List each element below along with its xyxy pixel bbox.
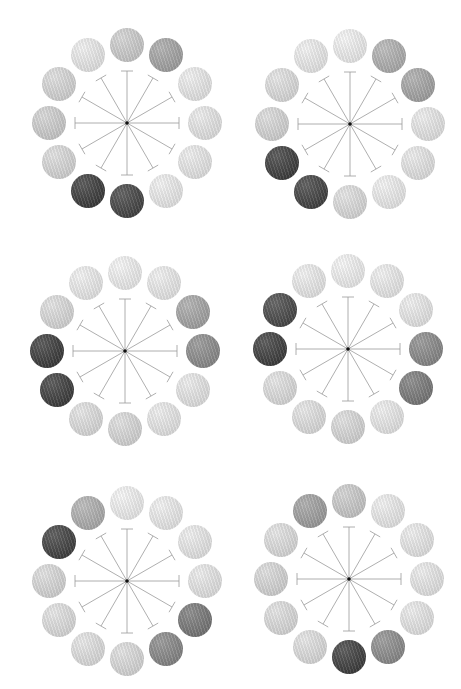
spoke — [127, 123, 153, 168]
spoke-hub-icon — [12, 8, 242, 238]
color-wheel-panel-5 — [12, 466, 242, 689]
spoke-cap — [79, 144, 85, 154]
spoke-cap — [319, 166, 329, 172]
spoke — [305, 124, 350, 150]
spoke-cap — [96, 165, 106, 171]
spoke — [101, 581, 127, 626]
hub-dot — [125, 121, 129, 125]
color-wheel-panel-2 — [235, 9, 461, 239]
spoke-cap — [77, 372, 83, 382]
spoke — [99, 306, 125, 351]
color-wheel-panel-6 — [234, 464, 461, 689]
spoke-cap — [79, 92, 85, 102]
spoke — [101, 78, 127, 123]
spoke-cap — [167, 372, 173, 382]
hub-dot — [123, 349, 127, 353]
spoke-cap — [96, 75, 106, 81]
spoke-cap — [391, 548, 397, 558]
spoke — [125, 325, 170, 351]
spoke — [127, 78, 153, 123]
spoke — [127, 581, 153, 626]
spoke — [323, 534, 349, 579]
spoke — [322, 304, 348, 349]
spoke-cap — [369, 301, 379, 307]
spoke-cap — [77, 320, 83, 330]
spoke-cap — [146, 393, 156, 399]
spoke — [82, 555, 127, 581]
spoke-cap — [94, 303, 104, 309]
spoke — [127, 123, 172, 149]
spoke — [323, 579, 349, 624]
spoke-cap — [392, 93, 398, 103]
spoke-cap — [167, 320, 173, 330]
spoke-cap — [301, 600, 307, 610]
spoke — [348, 349, 374, 394]
spoke — [348, 349, 393, 375]
spoke — [127, 581, 172, 607]
spoke-cap — [371, 76, 381, 82]
hub-dot — [125, 579, 129, 583]
spoke — [127, 536, 153, 581]
spoke — [82, 123, 127, 149]
spoke — [322, 349, 348, 394]
spoke-cap — [148, 165, 158, 171]
spoke — [303, 323, 348, 349]
spoke-cap — [390, 370, 396, 380]
spoke — [324, 124, 350, 169]
spoke-cap — [369, 391, 379, 397]
spoke-cap — [370, 621, 380, 627]
color-wheel-panel-4 — [233, 234, 461, 464]
hub-dot — [347, 577, 351, 581]
spoke-cap — [148, 75, 158, 81]
spoke — [350, 98, 395, 124]
spoke — [305, 98, 350, 124]
spoke — [304, 579, 349, 605]
spoke-cap — [169, 602, 175, 612]
color-wheel-panel-3 — [10, 236, 240, 466]
spoke-cap — [300, 370, 306, 380]
color-wheel-panel-1 — [12, 8, 242, 238]
spoke-cap — [96, 623, 106, 629]
spoke — [127, 555, 172, 581]
spoke-cap — [169, 92, 175, 102]
spoke-cap — [169, 550, 175, 560]
spoke — [350, 124, 376, 169]
spoke — [324, 79, 350, 124]
spoke-cap — [96, 533, 106, 539]
spoke-hub-icon — [10, 236, 240, 466]
spoke-cap — [302, 93, 308, 103]
spoke — [350, 79, 376, 124]
spoke-cap — [148, 533, 158, 539]
spoke-cap — [318, 531, 328, 537]
spoke — [303, 349, 348, 375]
spoke-cap — [302, 145, 308, 155]
spoke-cap — [301, 548, 307, 558]
spoke-cap — [300, 318, 306, 328]
spoke — [101, 123, 127, 168]
spoke — [99, 351, 125, 396]
spoke-cap — [148, 623, 158, 629]
spoke — [125, 306, 151, 351]
spoke — [101, 536, 127, 581]
spoke — [125, 351, 170, 377]
hub-dot — [346, 347, 350, 351]
spoke-cap — [371, 166, 381, 172]
spoke — [80, 325, 125, 351]
spoke-hub-icon — [233, 234, 461, 464]
spoke — [80, 351, 125, 377]
spoke — [82, 97, 127, 123]
spoke — [125, 351, 151, 396]
spoke — [349, 579, 375, 624]
spoke-hub-icon — [234, 464, 461, 689]
spoke-cap — [391, 600, 397, 610]
spoke — [127, 97, 172, 123]
spoke-hub-icon — [235, 9, 461, 239]
spoke — [304, 553, 349, 579]
spoke-cap — [390, 318, 396, 328]
spoke — [350, 124, 395, 150]
spoke — [349, 553, 394, 579]
spoke — [349, 534, 375, 579]
spoke-cap — [317, 391, 327, 397]
spoke-cap — [318, 621, 328, 627]
hub-dot — [348, 122, 352, 126]
